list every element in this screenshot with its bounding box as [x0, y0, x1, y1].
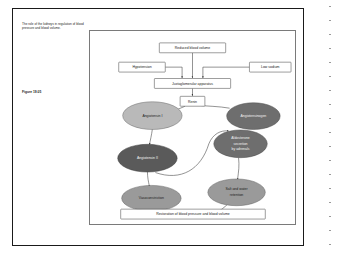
node-label-juxtaglomerular-apparatus: Juxtaglomerular apparatus — [172, 82, 213, 86]
node-label-aldosterone-line2: secretion — [234, 142, 248, 146]
figure-number-label: Figure 19.05 — [22, 90, 41, 94]
pathway-diagram: Reduced blood volume Hypotension Low sod… — [90, 31, 295, 224]
node-aldosterone-secretion[interactable]: Aldosterone secretion by adrenals — [214, 130, 267, 158]
figure-caption: The role of the kidneys in regulation of… — [22, 22, 84, 31]
node-label-angiotensin-i: Angiotensin I — [142, 114, 162, 118]
node-label-reduced-blood-volume: Reduced blood volume — [175, 46, 210, 50]
node-hypotension[interactable]: Hypotension — [119, 62, 166, 72]
node-label-aldosterone-line1: Aldosterone — [231, 136, 250, 140]
node-label-retention-line1: Salt and water — [226, 187, 249, 191]
diagram-panel: Reduced blood volume Hypotension Low sod… — [89, 30, 296, 225]
connector-aldosterone-to-retention — [238, 158, 239, 180]
node-juxtaglomerular-apparatus[interactable]: Juxtaglomerular apparatus — [154, 79, 230, 89]
node-low-sodium[interactable]: Low sodium — [249, 62, 291, 72]
slide-page: The role of the kidneys in regulation of… — [12, 8, 304, 246]
node-reduced-blood-volume[interactable]: Reduced blood volume — [159, 43, 225, 53]
node-renin[interactable]: Renin — [180, 96, 205, 106]
node-salt-water-retention[interactable]: Salt and water retention — [208, 179, 265, 206]
node-label-low-sodium: Low sodium — [261, 65, 280, 69]
node-label-aldosterone-line3: by adrenals — [232, 147, 250, 151]
node-angiotensin-i[interactable]: Angiotensin I — [123, 102, 182, 130]
node-restoration[interactable]: Restoration of blood pressure and blood … — [121, 209, 266, 219]
node-angiotensinogen[interactable]: Angiotensinogen — [227, 103, 280, 130]
connector-angiotensin-i-to-ii — [149, 129, 152, 145]
node-label-hypotension: Hypotension — [132, 65, 151, 69]
node-label-retention-line2: retention — [230, 193, 244, 197]
connector-angiotensin-ii-to-vasoconstriction — [147, 172, 149, 187]
node-label-angiotensin-ii: Angiotensin II — [137, 156, 158, 160]
node-angiotensin-ii[interactable]: Angiotensin II — [118, 144, 177, 172]
node-label-vasoconstriction: Vasoconstriction — [139, 196, 164, 200]
node-label-restoration: Restoration of blood pressure and blood … — [156, 212, 230, 216]
edge-ruler-ticks — [329, 6, 332, 252]
node-label-angiotensinogen: Angiotensinogen — [241, 114, 267, 118]
connector-sodium-to-jga — [203, 67, 250, 78]
node-vasoconstriction[interactable]: Vasoconstriction — [122, 185, 181, 211]
connector-hypotension-to-jga — [165, 67, 182, 78]
node-label-renin: Renin — [188, 100, 197, 104]
